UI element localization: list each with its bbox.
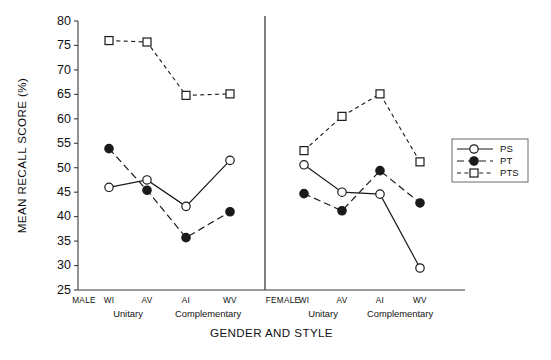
series-path xyxy=(109,41,230,96)
legend: PSPTPTS xyxy=(452,139,528,182)
x-tick-label: AV xyxy=(142,296,153,305)
marker-open-circle xyxy=(338,188,346,196)
x-tick-label-female: FEMALE xyxy=(266,296,301,305)
y-tick-label: 50 xyxy=(57,161,71,175)
series-path xyxy=(304,94,420,162)
marker-open-circle xyxy=(226,156,234,164)
chart-figure: 253035404550556065707580MEAN RECALL SCOR… xyxy=(0,0,551,360)
marker-open-circle xyxy=(182,202,190,210)
marker-open-circle xyxy=(376,190,384,198)
marker-open-circle xyxy=(416,264,424,272)
marker-filled-circle xyxy=(143,186,151,194)
series-ps-female xyxy=(300,161,424,273)
series-path xyxy=(109,160,230,206)
legend-label: PT xyxy=(500,155,512,166)
marker-filled-circle xyxy=(300,189,308,197)
marker-filled-circle xyxy=(226,208,234,216)
marker-open-square xyxy=(416,158,424,166)
y-tick-label: 45 xyxy=(57,185,71,199)
marker-filled-circle xyxy=(105,144,113,152)
marker-filled-circle xyxy=(470,157,478,165)
marker-open-circle xyxy=(105,183,113,191)
x-axis-title: GENDER AND STYLE xyxy=(210,326,333,339)
marker-open-square xyxy=(182,91,190,99)
series-pts-male xyxy=(105,37,234,100)
x-tick-label: AI xyxy=(182,296,190,305)
legend-label: PS xyxy=(500,143,513,154)
marker-open-square xyxy=(143,38,151,46)
x-tick-label: AV xyxy=(337,296,348,305)
marker-open-circle xyxy=(143,176,151,184)
y-tick-label: 30 xyxy=(57,258,71,272)
line-chart-canvas: 253035404550556065707580MEAN RECALL SCOR… xyxy=(0,0,551,360)
x-tick-label: AI xyxy=(376,296,384,305)
x-group-label: Unitary xyxy=(113,308,143,319)
y-tick-label: 40 xyxy=(57,209,71,223)
x-tick-label: WV xyxy=(223,296,237,305)
marker-open-square xyxy=(376,90,384,98)
legend-label: PTS xyxy=(500,167,519,178)
marker-open-square xyxy=(105,37,113,45)
x-group-label: Unitary xyxy=(308,308,338,319)
marker-filled-circle xyxy=(182,233,190,241)
y-tick-label: 65 xyxy=(57,87,71,101)
marker-open-circle xyxy=(470,145,478,153)
marker-open-square xyxy=(470,169,478,177)
series-pt-male xyxy=(105,144,234,241)
y-tick-label: 70 xyxy=(57,63,71,77)
series-path xyxy=(304,165,420,268)
y-axis-title: MEAN RECALL SCORE (%) xyxy=(15,78,28,234)
x-group-label: Complementary xyxy=(367,308,433,319)
marker-open-square xyxy=(338,112,346,120)
x-tick-label: WI xyxy=(104,296,115,305)
marker-filled-circle xyxy=(376,166,384,174)
marker-filled-circle xyxy=(416,199,424,207)
y-tick-label: 60 xyxy=(57,112,71,126)
series-path xyxy=(109,149,230,238)
x-tick-label: WV xyxy=(413,296,427,305)
series-ps-male xyxy=(105,156,234,210)
series-pt-female xyxy=(300,166,424,215)
y-tick-label: 25 xyxy=(57,283,71,297)
y-tick-label: 80 xyxy=(57,14,71,28)
y-tick-label: 55 xyxy=(57,136,71,150)
y-tick-label: 75 xyxy=(57,38,71,52)
marker-open-square xyxy=(226,90,234,98)
series-pts-female xyxy=(300,90,424,166)
x-group-label: Complementary xyxy=(175,308,241,319)
marker-open-square xyxy=(300,147,308,155)
x-tick-label-male: MALE xyxy=(72,296,96,305)
y-tick-label: 35 xyxy=(57,234,71,248)
marker-filled-circle xyxy=(338,207,346,215)
x-tick-label: WI xyxy=(299,296,310,305)
marker-open-circle xyxy=(300,161,308,169)
